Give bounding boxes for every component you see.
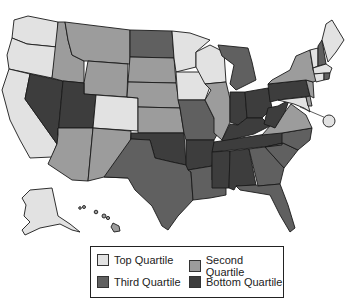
legend-third-quartile: Third Quartile [97,276,181,288]
legend-top-quartile: Top Quartile [97,254,173,266]
state-hi [79,206,120,233]
state-ri [324,73,330,80]
legend-label: Third Quartile [114,276,181,288]
state-dc [323,115,335,127]
legend-second-quartile: Second Quartile [189,254,283,278]
state-ct [314,73,324,82]
legend-swatch-top [97,254,109,266]
legend-bottom-quartile: Bottom Quartile [189,276,282,288]
legend-label: Bottom Quartile [206,276,282,288]
state-fl [236,184,295,232]
state-co [93,95,138,131]
state-ar [186,140,214,170]
legend-swatch-bottom [189,276,201,288]
legend-swatch-second [189,260,201,272]
legend-swatch-third [97,276,109,288]
state-ak [22,188,80,235]
state-wy [84,61,128,97]
state-nd [130,30,174,58]
state-me [322,20,344,62]
legend-label: Top Quartile [114,254,173,266]
state-ks [138,107,184,133]
state-ms [212,151,230,188]
legend: Top Quartile Second Quartile Third Quart… [90,246,284,298]
legend-label: Second Quartile [206,254,283,278]
state-sd [128,57,176,83]
